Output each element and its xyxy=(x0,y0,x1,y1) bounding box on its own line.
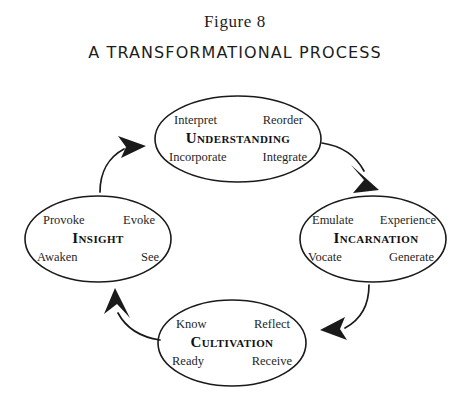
node-insight-bottom-row: Awaken See xyxy=(35,251,161,264)
node-insight-top-row: Provoke Evoke xyxy=(35,214,161,227)
arrow-incarnation-to-cultivation xyxy=(320,285,369,340)
node-understanding-word-top-right: Reorder xyxy=(263,114,303,127)
node-incarnation[interactable]: Emulate Experience Incarnation Vocate Ge… xyxy=(300,196,446,282)
node-insight-word-bottom-right: See xyxy=(141,251,159,264)
node-cultivation-top-row: Know Reflect xyxy=(172,318,292,331)
node-insight-word-bottom-left: Awaken xyxy=(37,251,78,264)
node-cultivation-bottom-row: Ready Receive xyxy=(172,355,292,368)
arrow-cultivation-to-insight xyxy=(104,288,160,340)
node-cultivation[interactable]: Know Reflect Cultivation Ready Receive xyxy=(158,300,306,386)
node-understanding-top-row: Interpret Reorder xyxy=(169,114,307,127)
node-understanding-word-bottom-right: Integrate xyxy=(263,151,307,164)
node-incarnation-word-bottom-left: Vocate xyxy=(308,251,342,264)
node-incarnation-word-bottom-right: Generate xyxy=(389,251,434,264)
node-insight-word-top-right: Evoke xyxy=(123,214,155,227)
node-insight-title: Insight xyxy=(72,231,123,247)
node-insight[interactable]: Provoke Evoke Insight Awaken See xyxy=(25,196,171,282)
node-incarnation-word-top-right: Experience xyxy=(380,214,436,227)
node-cultivation-word-top-right: Reflect xyxy=(254,318,290,331)
node-understanding[interactable]: Interpret Reorder Understanding Incorpor… xyxy=(155,96,321,182)
node-insight-word-top-left: Provoke xyxy=(43,214,85,227)
node-incarnation-top-row: Emulate Experience xyxy=(308,214,438,227)
node-understanding-word-top-left: Interpret xyxy=(174,114,217,127)
node-incarnation-word-top-left: Emulate xyxy=(312,214,354,227)
node-cultivation-word-top-left: Know xyxy=(176,318,207,331)
arrow-insight-to-understanding xyxy=(100,136,146,192)
node-understanding-word-bottom-left: Incorporate xyxy=(169,151,227,164)
node-cultivation-word-bottom-left: Ready xyxy=(172,355,204,368)
node-incarnation-bottom-row: Vocate Generate xyxy=(308,251,438,264)
figure-container: Figure 8 A TRANSFORMATIONAL PROCESS xyxy=(0,0,470,414)
node-understanding-title: Understanding xyxy=(186,131,290,147)
node-cultivation-word-bottom-right: Receive xyxy=(252,355,292,368)
node-incarnation-title: Incarnation xyxy=(333,231,418,247)
node-understanding-bottom-row: Incorporate Integrate xyxy=(169,151,307,164)
node-cultivation-title: Cultivation xyxy=(191,335,274,351)
arrow-understanding-to-incarnation xyxy=(322,143,379,193)
